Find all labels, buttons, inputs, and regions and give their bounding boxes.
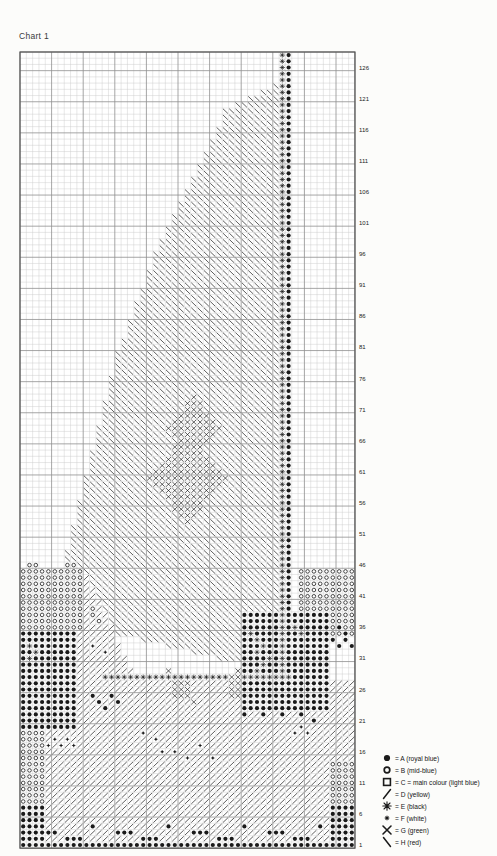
row-number-label: 11	[359, 780, 375, 786]
row-number-label: 46	[359, 562, 375, 568]
legend-item-label: = E (black)	[395, 803, 427, 810]
scanned-chart-page: Chart 1 12612111611110610196918681767166…	[0, 0, 497, 856]
legend-item-g-green: = G (green)	[381, 824, 480, 836]
slash-icon	[381, 788, 393, 800]
row-number-label: 71	[359, 407, 375, 413]
row-number-label: 26	[359, 687, 375, 693]
row-number-label: 31	[359, 655, 375, 661]
row-number-label: 56	[359, 500, 375, 506]
legend-item-label: = G (green)	[395, 827, 429, 834]
open-circle-icon	[381, 764, 393, 776]
legend-item-d-yellow: = D (yellow)	[381, 788, 480, 800]
row-number-label: 106	[359, 189, 375, 195]
legend-item-h-red: = H (red)	[381, 836, 480, 848]
legend-item-label: = A (royal blue)	[395, 755, 439, 762]
legend-item-label: = B (mid-blue)	[395, 767, 437, 774]
small-star-icon	[381, 812, 393, 824]
row-number-label: 1	[359, 842, 375, 848]
legend-item-label: = C = main colour (light blue)	[395, 779, 480, 786]
backslash-icon	[381, 836, 393, 848]
legend-item-c-main-colour-light-blue: = C = main colour (light blue)	[381, 776, 480, 788]
legend-item-f-white: = F (white)	[381, 812, 480, 824]
row-number-label: 96	[359, 251, 375, 257]
legend-item-a-royal-blue: = A (royal blue)	[381, 752, 480, 764]
knitting-chart-grid	[0, 0, 497, 856]
row-number-label: 76	[359, 376, 375, 382]
row-number-label: 101	[359, 220, 375, 226]
asterisk-icon	[381, 800, 393, 812]
row-number-label: 61	[359, 469, 375, 475]
row-number-label: 81	[359, 344, 375, 350]
legend-item-label: = H (red)	[395, 839, 421, 846]
legend: = A (royal blue)= B (mid-blue)= C = main…	[381, 752, 480, 848]
row-number-label: 126	[359, 65, 375, 71]
legend-item-label: = D (yellow)	[395, 791, 430, 798]
row-number-label: 51	[359, 531, 375, 537]
legend-item-e-black: = E (black)	[381, 800, 480, 812]
open-square-icon	[381, 776, 393, 788]
cross-x-icon	[381, 824, 393, 836]
row-number-label: 86	[359, 313, 375, 319]
legend-item-label: = F (white)	[395, 815, 426, 822]
row-number-label: 111	[359, 158, 375, 164]
row-number-label: 21	[359, 718, 375, 724]
row-number-label: 91	[359, 282, 375, 288]
filled-circle-icon	[381, 752, 393, 764]
row-number-label: 41	[359, 593, 375, 599]
legend-item-b-mid-blue: = B (mid-blue)	[381, 764, 480, 776]
row-number-label: 6	[359, 811, 375, 817]
row-number-label: 121	[359, 96, 375, 102]
row-number-label: 66	[359, 438, 375, 444]
row-number-label: 116	[359, 127, 375, 133]
row-number-label: 36	[359, 624, 375, 630]
row-number-label: 16	[359, 749, 375, 755]
